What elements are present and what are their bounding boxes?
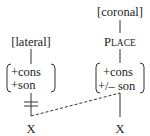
right-timing-slot: X <box>115 122 124 136</box>
right-matrix-bracket-right <box>140 63 144 93</box>
coronal-feature-label: [coronal] <box>97 5 143 19</box>
place-node-label: PLACE <box>104 35 136 49</box>
lateral-feature-label: [lateral] <box>11 35 51 49</box>
left-matrix-cons: +cons <box>11 65 41 79</box>
left-matrix-bracket-right <box>51 64 55 92</box>
right-matrix-son: +/– son <box>98 79 136 93</box>
feature-geometry-diagram: [lateral] +cons +son X [coronal] PLACE +… <box>0 0 150 136</box>
right-matrix-cons: +cons <box>103 65 133 79</box>
left-timing-slot: X <box>26 122 35 136</box>
left-matrix-son: +son <box>11 78 36 92</box>
spreading-dashed-line <box>31 93 120 116</box>
